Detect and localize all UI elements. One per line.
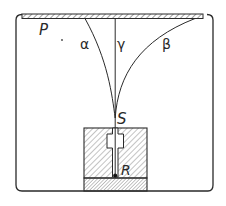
point-marker (61, 39, 63, 41)
lead-block-base (84, 178, 147, 191)
radiation-deflection-diagram: P α γ β S R (0, 0, 226, 206)
alpha-ray-path (85, 19, 115, 119)
label-slit: S (117, 110, 127, 128)
photographic-plate (22, 14, 203, 19)
label-plate: P (39, 21, 49, 39)
label-beta: β (162, 36, 171, 52)
label-gamma: γ (117, 36, 125, 52)
beta-ray-path (115, 19, 195, 119)
label-source: R (121, 162, 131, 178)
label-alpha: α (80, 36, 89, 52)
